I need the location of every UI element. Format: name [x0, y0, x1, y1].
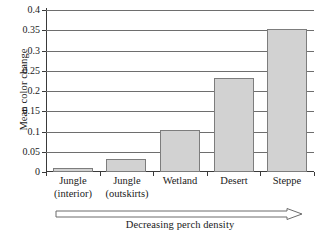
bar	[53, 168, 93, 172]
y-axis-tick-label: 0.15	[23, 106, 41, 116]
x-axis-category-label-line2: (outskirts)	[100, 187, 154, 200]
y-axis-tick-label: 0.05	[23, 147, 41, 157]
x-axis-category-label: Jungle(outskirts)	[100, 174, 154, 200]
y-axis-tick-label: 0.2	[28, 86, 41, 96]
x-axis-category-label-line1: Desert	[220, 175, 247, 186]
x-axis-category-label-line1: Jungle	[59, 175, 86, 186]
x-axis-tick-mark	[314, 172, 315, 176]
x-axis-category-label: Steppe	[260, 174, 314, 187]
y-axis-tick-label: 0.1	[28, 127, 41, 137]
bar	[267, 29, 307, 172]
bar	[214, 78, 254, 172]
plot-area: 00.050.10.150.20.250.30.350.4	[46, 10, 314, 172]
x-axis-category-label: Desert	[207, 174, 261, 187]
bar	[106, 159, 146, 172]
x-axis-category-label: Wetland	[153, 174, 207, 187]
x-axis-category-label: Jungle(interior)	[46, 174, 100, 200]
bars-container	[46, 10, 314, 172]
x-axis-annotation-caption: Decreasing perch density	[46, 219, 314, 230]
y-axis-tick-label: 0.35	[23, 25, 41, 35]
x-axis-category-label-line1: Wetland	[163, 175, 198, 186]
y-axis-tick-label: 0.25	[23, 66, 41, 76]
decreasing-perch-density-arrow-icon	[55, 206, 303, 218]
x-axis-category-label-line1: Steppe	[273, 175, 302, 186]
y-axis-tick-label: 0.3	[28, 46, 41, 56]
y-axis-tick-label: 0.4	[28, 5, 41, 15]
x-axis-category-label-line1: Jungle	[113, 175, 140, 186]
bar	[160, 130, 200, 172]
x-axis-labels: Jungle(interior)Jungle(outskirts)Wetland…	[46, 174, 314, 204]
bar-chart-figure: Mean color change 00.050.10.150.20.250.3…	[0, 0, 319, 239]
y-axis-tick-label: 0	[35, 167, 40, 177]
x-axis-category-label-line2: (interior)	[46, 187, 100, 200]
